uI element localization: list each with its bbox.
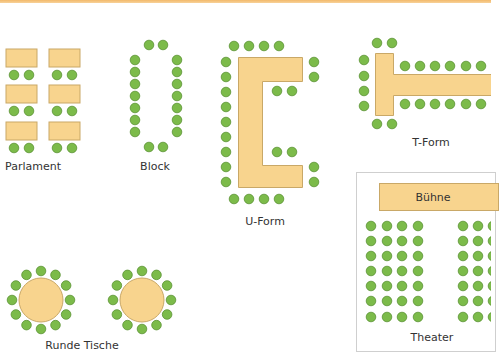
chair-icon (372, 119, 382, 129)
chair-icon (67, 143, 77, 153)
chair-icon (9, 106, 19, 116)
chair-icon (488, 296, 491, 306)
chair-icon (366, 251, 376, 261)
chair-icon (413, 296, 423, 306)
chair-icon (67, 70, 77, 80)
chair-icon (397, 221, 407, 231)
chair-icon (430, 99, 440, 109)
chair-icon (366, 266, 376, 276)
chair-icon (309, 162, 319, 172)
chair-icon (382, 221, 392, 231)
chair-icon (9, 70, 19, 80)
chair-icon (130, 55, 140, 65)
chair-icon (172, 127, 182, 137)
label-t-form: T-Form (412, 136, 449, 149)
chair-icon (372, 38, 382, 48)
chair-icon (473, 266, 483, 276)
chair-icon (130, 115, 140, 125)
label-u-form: U-Form (245, 215, 285, 228)
chair-icon (221, 132, 231, 142)
chair-icon (221, 102, 231, 112)
chair-icon (382, 266, 392, 276)
chair-icon (488, 221, 491, 231)
chair-icon (413, 221, 423, 231)
chair-icon (397, 296, 407, 306)
chair-icon (359, 86, 369, 96)
chair-icon (366, 312, 376, 322)
chair-icon (397, 312, 407, 322)
chair-icon (272, 147, 282, 157)
chair-icon (172, 115, 182, 125)
chair-icon (476, 99, 486, 109)
chair-icon (52, 106, 62, 116)
label-block: Block (140, 160, 170, 173)
chair-icon (458, 251, 468, 261)
chair-icon (36, 324, 46, 334)
chair-icon (415, 61, 425, 71)
chair-icon (274, 194, 284, 204)
chair-icon (9, 143, 19, 153)
chair-icon (387, 38, 397, 48)
chair-icon (382, 236, 392, 246)
chair-icon (387, 119, 397, 129)
chair-icon (309, 177, 319, 187)
chair-icon (221, 72, 231, 82)
chair-icon (221, 147, 231, 157)
chair-icon (137, 324, 147, 334)
chair-icon (413, 251, 423, 261)
chair-icon (158, 40, 168, 50)
chair-icon (359, 71, 369, 81)
chair-icon (488, 236, 491, 246)
chair-icon (221, 162, 231, 172)
chair-icon (152, 320, 162, 330)
chair-icon (259, 194, 269, 204)
chair-icon (458, 236, 468, 246)
chair-icon (309, 72, 319, 82)
chair-icon (65, 295, 75, 305)
chair-icon (221, 87, 231, 97)
chair-icon (244, 41, 254, 51)
chair-icon (473, 312, 483, 322)
chair-icon (382, 312, 392, 322)
chair-icon (272, 86, 282, 96)
chair-icon (229, 41, 239, 51)
chair-icon (162, 310, 172, 320)
chair-icon (130, 127, 140, 137)
chair-icon (382, 251, 392, 261)
chair-icon (11, 281, 21, 291)
chair-icon (309, 57, 319, 67)
chair-icon (259, 41, 269, 51)
chair-icon (172, 55, 182, 65)
chair-icon (112, 281, 122, 291)
chair-icon (458, 312, 468, 322)
chair-icon (397, 281, 407, 291)
chair-icon (144, 142, 154, 152)
chair-icon (458, 266, 468, 276)
chair-icon (221, 177, 231, 187)
chair-icon (397, 236, 407, 246)
chair-icon (51, 320, 61, 330)
chair-icon (461, 99, 471, 109)
chair-icon (130, 79, 140, 89)
chair-icon (430, 61, 440, 71)
chair-icon (445, 99, 455, 109)
chair-icon (287, 86, 297, 96)
chair-icon (359, 101, 369, 111)
chair-icon (366, 221, 376, 231)
chair-icon (162, 281, 172, 291)
chair-icon (11, 310, 21, 320)
chair-icon (244, 194, 254, 204)
chair-icon (413, 236, 423, 246)
label-runde-tische: Runde Tische (45, 339, 118, 352)
chair-icon (458, 296, 468, 306)
chair-icon (400, 99, 410, 109)
chair-icon (52, 143, 62, 153)
chair-icon (61, 310, 71, 320)
chair-icon (488, 281, 491, 291)
chair-icon (366, 296, 376, 306)
chair-icon (359, 55, 369, 65)
chair-icon (400, 61, 410, 71)
chair-icon (36, 266, 46, 276)
chair-icon (108, 295, 118, 305)
